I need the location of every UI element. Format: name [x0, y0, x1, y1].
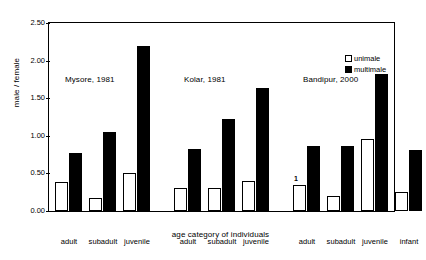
legend-item-multimale[interactable]: multimale	[345, 64, 386, 75]
group-label: Mysore, 1981	[65, 75, 115, 84]
legend-label-unimale: unimale	[354, 53, 380, 64]
bar-unimale-adult[interactable]	[174, 188, 187, 211]
y-axis-title: male / female	[12, 23, 21, 143]
bar-multimale-juvenile[interactable]	[256, 88, 269, 211]
bar-note: 1	[294, 175, 298, 182]
bar-unimale-juvenile[interactable]	[123, 173, 136, 211]
legend-label-multimale: multimale	[354, 64, 386, 75]
legend-item-unimale[interactable]: unimale	[345, 53, 386, 64]
bar-group-bandipur: Bandipur, 2000 1	[293, 23, 426, 211]
y-tick-mark	[46, 136, 50, 137]
bar-unimale-subadult[interactable]	[208, 188, 221, 211]
bar-multimale-subadult[interactable]	[341, 146, 354, 211]
bar-multimale-adult[interactable]	[69, 153, 82, 211]
bar-multimale-subadult[interactable]	[103, 132, 116, 211]
plot-area: 0.00 0.50 1.00 1.50 2.00 2.50 Mysore, 19…	[48, 22, 395, 212]
y-tick-mark	[46, 23, 50, 24]
bar-unimale-adult[interactable]	[55, 182, 68, 211]
y-tick-label: 1.50	[5, 94, 45, 102]
y-tick-label: 1.00	[5, 132, 45, 140]
y-tick-label: 2.50	[5, 19, 45, 27]
bar-group-kolar: Kolar, 1981	[174, 23, 278, 211]
bar-unimale-adult[interactable]	[293, 185, 306, 211]
bar-multimale-juvenile[interactable]	[375, 74, 388, 211]
y-tick-mark	[46, 173, 50, 174]
legend-swatch-unimale-icon	[345, 55, 352, 62]
y-tick-mark	[46, 61, 50, 62]
legend-swatch-multimale-icon	[345, 66, 352, 73]
bar-unimale-subadult[interactable]	[327, 196, 340, 211]
y-tick-label: 0.50	[5, 170, 45, 178]
bar-multimale-subadult[interactable]	[222, 119, 235, 211]
x-tick-label-infant: infant	[400, 237, 419, 246]
bar-unimale-subadult[interactable]	[89, 198, 102, 211]
x-axis-title: age category of individuals	[48, 230, 393, 239]
y-tick-label: 0.00	[5, 207, 45, 215]
group-label: Bandipur, 2000	[303, 75, 358, 84]
group-label: Kolar, 1981	[184, 75, 226, 84]
bar-unimale-juvenile[interactable]	[242, 181, 255, 211]
bar-unimale-infant[interactable]	[395, 192, 408, 211]
bar-unimale-juvenile[interactable]	[361, 139, 374, 211]
legend: unimale multimale	[345, 53, 386, 75]
bar-multimale-infant[interactable]	[409, 150, 422, 211]
bar-multimale-adult[interactable]	[188, 149, 201, 211]
y-tick-mark	[46, 211, 50, 212]
bar-multimale-juvenile[interactable]	[137, 46, 150, 211]
y-tick-mark	[46, 98, 50, 99]
bar-multimale-adult[interactable]	[307, 146, 320, 211]
y-tick-label: 2.00	[5, 57, 45, 65]
bar-group-mysore: Mysore, 1981	[55, 23, 159, 211]
